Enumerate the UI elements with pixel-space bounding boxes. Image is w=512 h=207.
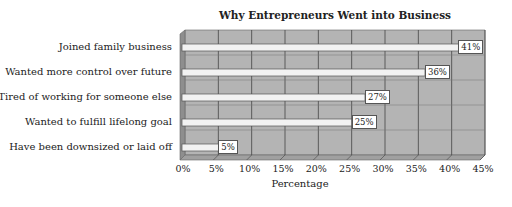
x-tick-label: 35% bbox=[406, 163, 427, 174]
x-tick-label: 30% bbox=[372, 163, 393, 174]
x-tick-label: 25% bbox=[339, 163, 360, 174]
bar bbox=[182, 69, 425, 76]
x-tick-label: 45% bbox=[472, 163, 493, 174]
category-label: Wanted to fulfill lifelong goal bbox=[25, 116, 172, 127]
data-label: 41% bbox=[458, 40, 483, 54]
data-label: 36% bbox=[425, 65, 450, 79]
x-tick-label: 20% bbox=[306, 163, 327, 174]
bar bbox=[182, 94, 365, 101]
x-axis-label: Percentage bbox=[271, 178, 328, 189]
x-tick-label: 40% bbox=[439, 163, 460, 174]
category-label: Wanted more control over future bbox=[5, 66, 172, 77]
category-label: Have been downsized or laid off bbox=[9, 141, 172, 152]
category-label: Tired of working for someone else bbox=[0, 91, 172, 102]
category-label: Joined family business bbox=[59, 41, 172, 52]
plot-area bbox=[0, 0, 512, 207]
x-tick-label: 10% bbox=[239, 163, 260, 174]
x-tick-label: 5% bbox=[209, 163, 224, 174]
bar bbox=[182, 119, 352, 126]
bar bbox=[182, 144, 218, 151]
bar bbox=[182, 44, 458, 51]
data-label: 25% bbox=[352, 115, 377, 129]
data-label: 27% bbox=[365, 90, 390, 104]
data-label: 5% bbox=[218, 140, 238, 154]
x-tick-label: 15% bbox=[272, 163, 293, 174]
x-tick-label: 0% bbox=[175, 163, 190, 174]
